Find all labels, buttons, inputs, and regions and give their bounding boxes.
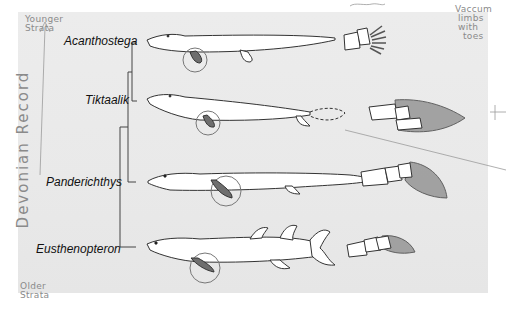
taxon-label-panderichthys: Panderichthys [46,175,122,189]
taxon-label-tiktaalik: Tiktaalik [85,93,129,107]
eusthenopteron-fin-illustration [347,236,415,257]
strata-arrow-line [40,27,45,175]
annotation-vaccum-limbs: Vaccum limbs with toes [455,5,492,41]
annotation-line: Strata [25,24,63,33]
taxon-label-acanthostega: Acanthostega [64,34,137,48]
annotation-line: toes [455,32,492,41]
panderichthys-illustration [148,173,374,206]
panderichthys-fin-illustration [361,162,447,198]
eusthenopteron-illustration [147,225,335,283]
annotation-line: Strata [20,291,49,300]
phylogeny-tree [120,43,137,247]
acanthostega-illustration [147,34,335,72]
annotation-older-strata: Older Strata [20,282,49,300]
tiktaalik-illustration [147,95,345,135]
annotation-devonian-record: Devonian Record [19,71,28,229]
annotation-younger-strata: Younger Strata [25,15,63,33]
pencil-annotations [40,4,506,175]
tiktaalik-fin-illustration [369,100,465,132]
acanthostega-limb-illustration [344,26,386,54]
taxon-label-eusthenopteron: Eusthenopteron [36,242,121,256]
